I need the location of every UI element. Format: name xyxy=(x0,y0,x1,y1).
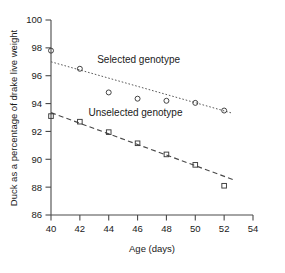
data-point-circle xyxy=(135,96,140,101)
x-tick-label: 52 xyxy=(219,223,230,234)
y-tick-label: 90 xyxy=(31,154,42,165)
y-tick-label: 96 xyxy=(31,70,42,81)
x-axis-tick-labels: 4042444648505254 xyxy=(46,223,259,234)
trend-line-1 xyxy=(51,62,233,114)
y-tick-label: 92 xyxy=(31,126,42,137)
x-tick-label: 46 xyxy=(132,223,143,234)
y-axis-group: 86889092949698100 xyxy=(26,14,51,220)
x-tick-label: 54 xyxy=(248,223,259,234)
y-tick-label: 86 xyxy=(31,209,42,220)
series-annotation-1: Selected genotype xyxy=(97,54,180,65)
x-tick-label: 48 xyxy=(161,223,172,234)
x-axis-title: Age (days) xyxy=(129,243,175,254)
y-axis-tick-labels: 86889092949698100 xyxy=(26,14,42,220)
x-tick-label: 44 xyxy=(103,223,114,234)
y-tick-label: 98 xyxy=(31,42,42,53)
x-axis-group: 4042444648505254 xyxy=(46,215,259,234)
trend-line-2 xyxy=(51,113,233,180)
data-point-circle xyxy=(77,66,82,71)
x-tick-label: 50 xyxy=(190,223,201,234)
data-point-circle xyxy=(106,90,111,95)
y-tick-label: 100 xyxy=(26,14,42,25)
y-tick-label: 94 xyxy=(31,98,42,109)
data-point-square xyxy=(78,119,83,124)
x-tick-label: 42 xyxy=(75,223,86,234)
x-tick-label: 40 xyxy=(46,223,57,234)
y-tick-label: 88 xyxy=(31,182,42,193)
x-axis-ticks xyxy=(51,215,253,221)
data-point-circle xyxy=(164,98,169,103)
series-annotation-2: Unselected genotype xyxy=(89,107,183,118)
y-axis-title: Duck as a percentage of drake live weigh… xyxy=(8,29,19,206)
scatter-plot: 86889092949698100 4042444648505254 Selec… xyxy=(0,0,285,273)
data-point-square xyxy=(222,183,227,188)
chart-figure: 86889092949698100 4042444648505254 Selec… xyxy=(0,0,285,273)
series-trend-lines xyxy=(51,62,233,180)
